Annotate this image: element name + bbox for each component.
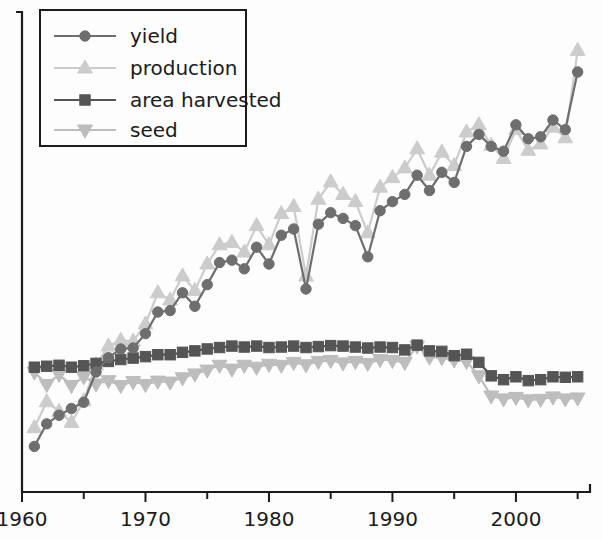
data-point-circle (350, 220, 360, 230)
data-point-square (548, 372, 558, 382)
data-point-square (474, 357, 484, 367)
data-point-square (264, 342, 274, 352)
data-point-circle (264, 259, 274, 269)
data-point-square (66, 362, 76, 372)
data-point-square (400, 345, 410, 355)
legend-item-label: yield (130, 24, 178, 48)
data-point-square (54, 360, 64, 370)
data-point-circle (288, 224, 298, 234)
data-point-square (486, 371, 496, 381)
data-point-circle (80, 31, 90, 41)
data-point-square (449, 350, 459, 360)
data-point-circle (375, 206, 385, 216)
data-point-circle (535, 132, 545, 142)
data-point-circle (66, 403, 76, 413)
data-point-square (572, 372, 582, 382)
data-point-circle (412, 170, 422, 180)
data-point-square (190, 346, 200, 356)
data-point-square (276, 342, 286, 352)
data-point-square (535, 374, 545, 384)
data-point-square (202, 344, 212, 354)
data-point-circle (41, 419, 51, 429)
data-point-circle (523, 134, 533, 144)
x-axis-tick-label: 1970 (120, 507, 171, 531)
data-point-circle (251, 242, 261, 252)
legend: yieldproductionarea harvestedseed (40, 10, 282, 146)
x-axis-tick-label: 1960 (0, 507, 47, 531)
data-point-square (560, 372, 570, 382)
data-point-circle (548, 115, 558, 125)
data-point-circle (387, 196, 397, 206)
data-point-square (412, 340, 422, 350)
data-point-circle (116, 344, 126, 354)
data-point-square (363, 343, 373, 353)
data-point-circle (424, 185, 434, 195)
data-point-circle (511, 120, 521, 130)
data-point-circle (202, 279, 212, 289)
data-point-circle (338, 213, 348, 223)
data-point-circle (165, 305, 175, 315)
data-point-circle (437, 167, 447, 177)
data-point-square (511, 372, 521, 382)
legend-item-label: production (130, 56, 237, 80)
data-point-square (387, 342, 397, 352)
data-point-circle (474, 129, 484, 139)
data-point-circle (91, 367, 101, 377)
data-point-circle (325, 207, 335, 217)
data-point-square (523, 375, 533, 385)
chart-container: 19601970198019902000 yieldproductionarea… (0, 0, 602, 540)
x-axis-tick-label: 2000 (490, 507, 541, 531)
data-point-square (116, 354, 126, 364)
data-point-circle (560, 124, 570, 134)
data-point-square (165, 350, 175, 360)
data-point-circle (449, 177, 459, 187)
data-point-circle (239, 264, 249, 274)
line-chart: 19601970198019902000 yieldproductionarea… (0, 0, 602, 540)
data-point-circle (572, 67, 582, 77)
data-point-circle (214, 257, 224, 267)
data-point-square (375, 342, 385, 352)
data-point-square (437, 346, 447, 356)
data-point-square (29, 362, 39, 372)
data-point-circle (313, 219, 323, 229)
data-point-square (128, 353, 138, 363)
x-axis-tick-label: 1980 (244, 507, 295, 531)
data-point-circle (190, 301, 200, 311)
data-point-circle (276, 230, 286, 240)
data-point-square (239, 342, 249, 352)
legend-item-label: area harvested (130, 88, 282, 112)
data-point-square (498, 374, 508, 384)
data-point-square (140, 351, 150, 361)
data-point-circle (128, 343, 138, 353)
x-axis-tick-label: 1990 (367, 507, 418, 531)
data-point-square (251, 341, 261, 351)
data-point-square (153, 350, 163, 360)
data-point-circle (140, 328, 150, 338)
legend-item-label: seed (130, 118, 178, 142)
data-point-circle (498, 146, 508, 156)
data-point-square (338, 341, 348, 351)
data-point-square (214, 342, 224, 352)
data-point-circle (461, 141, 471, 151)
data-point-square (313, 341, 323, 351)
data-point-square (80, 95, 90, 105)
data-point-square (41, 361, 51, 371)
data-point-square (424, 346, 434, 356)
data-point-circle (400, 189, 410, 199)
data-point-circle (301, 284, 311, 294)
data-point-square (177, 347, 187, 357)
data-point-circle (363, 252, 373, 262)
data-point-square (301, 342, 311, 352)
data-point-square (79, 361, 89, 371)
data-point-square (325, 340, 335, 350)
data-point-circle (177, 288, 187, 298)
data-point-circle (29, 441, 39, 451)
data-point-square (350, 342, 360, 352)
data-point-circle (153, 307, 163, 317)
data-point-square (288, 341, 298, 351)
data-point-circle (486, 141, 496, 151)
data-point-circle (54, 410, 64, 420)
data-point-circle (79, 397, 89, 407)
data-point-square (227, 341, 237, 351)
data-point-circle (227, 255, 237, 265)
